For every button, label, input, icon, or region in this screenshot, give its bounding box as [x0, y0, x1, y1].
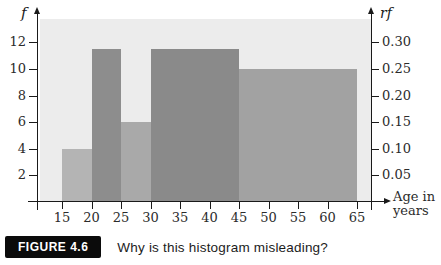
f-tick-4: [29, 149, 37, 150]
x-tick-label-65: 65: [342, 210, 372, 226]
f-tick-label-10: 10: [0, 61, 26, 77]
left-axis-title: f: [21, 4, 27, 22]
f-tick-label-2: 2: [0, 167, 26, 183]
x-tick-30: [151, 202, 152, 209]
rf-tick-0.05: [371, 175, 379, 176]
x-tick-45: [239, 202, 240, 209]
f-tick-label-6: 6: [0, 114, 26, 130]
bar-20-25: [92, 49, 122, 202]
rf-tick-label-0.10: 0.10: [382, 141, 422, 157]
x-tick-20: [92, 202, 93, 209]
x-tick-label-50: 50: [254, 210, 284, 226]
x-tick-65: [357, 202, 358, 209]
x-tick-55: [298, 202, 299, 209]
rf-tick-0.10: [371, 149, 379, 150]
x-tick-60: [328, 202, 329, 209]
f-tick-label-4: 4: [0, 141, 26, 157]
x-axis-line: [28, 201, 384, 202]
rf-tick-0.25: [371, 69, 379, 70]
f-tick-label-12: 12: [0, 34, 26, 50]
rf-tick-label-0.30: 0.30: [382, 34, 422, 50]
x-tick-label-60: 60: [313, 210, 343, 226]
rf-tick-label-0.05: 0.05: [382, 167, 422, 183]
rf-tick-label-0.15: 0.15: [382, 114, 422, 130]
f-tick-10: [29, 69, 37, 70]
bar-30-45: [151, 49, 240, 202]
x-tick-25: [121, 202, 122, 209]
bar-25-30: [121, 122, 151, 202]
x-tick-50: [269, 202, 270, 209]
right-axis-arrow-icon: [368, 7, 374, 14]
x-tick-label-55: 55: [283, 210, 313, 226]
x-axis-title: Age in years: [393, 190, 435, 218]
x-tick-40: [210, 202, 211, 209]
x-axis-arrow-icon: [384, 198, 391, 204]
f-tick-8: [29, 96, 37, 97]
x-tick-label-30: 30: [136, 210, 166, 226]
figure-4-6: 246810120.050.100.150.200.250.3015202530…: [0, 0, 441, 265]
f-tick-2: [29, 175, 37, 176]
x-axis-title-line2: years: [393, 203, 429, 218]
right-axis-title: rf: [380, 5, 392, 21]
bar-45-65: [239, 69, 357, 202]
figure-badge: FIGURE 4.6: [5, 236, 101, 258]
x-tick-label-40: 40: [195, 210, 225, 226]
right-axis-line: [371, 11, 372, 210]
x-tick-label-15: 15: [47, 210, 77, 226]
figure-caption: FIGURE 4.6 Why is this histogram mislead…: [5, 236, 328, 258]
x-tick-label-25: 25: [106, 210, 136, 226]
bar-15-20: [62, 149, 92, 202]
rf-tick-label-0.25: 0.25: [382, 61, 422, 77]
x-tick-label-35: 35: [165, 210, 195, 226]
f-tick-12: [29, 42, 37, 43]
rf-tick-0.20: [371, 96, 379, 97]
f-tick-label-8: 8: [0, 88, 26, 104]
rf-tick-0.30: [371, 42, 379, 43]
left-axis-line: [37, 11, 38, 210]
rf-tick-label-0.20: 0.20: [382, 88, 422, 104]
rf-tick-0.15: [371, 122, 379, 123]
f-tick-6: [29, 122, 37, 123]
left-axis-arrow-icon: [34, 7, 40, 14]
figure-caption-text: Why is this histogram misleading?: [117, 240, 328, 255]
x-tick-15: [62, 202, 63, 209]
x-axis-title-line1: Age in: [393, 189, 435, 204]
x-tick-label-20: 20: [77, 210, 107, 226]
x-tick-35: [180, 202, 181, 209]
x-tick-label-45: 45: [224, 210, 254, 226]
